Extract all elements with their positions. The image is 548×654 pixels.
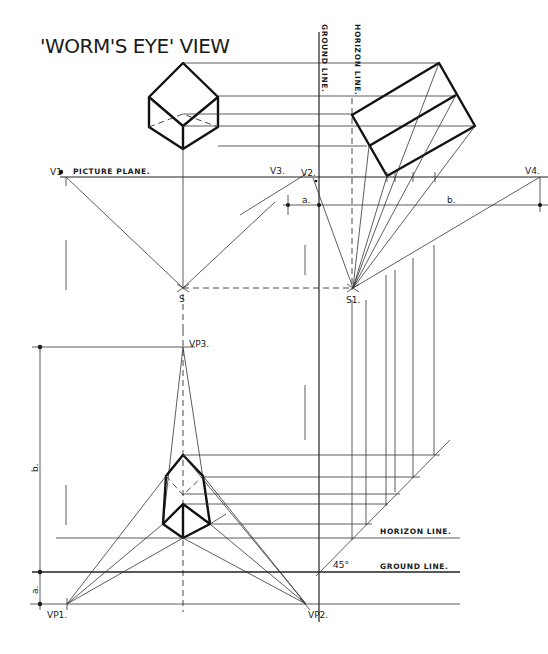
picture-plane-label: PICTURE PLANE. (73, 167, 150, 176)
drawing-title: 'WORM'S EYE' VIEW (40, 34, 230, 58)
horizon-line-label: HORIZON LINE. (380, 527, 452, 536)
v4-label: V4. (525, 166, 540, 176)
b-top-label: b. (447, 195, 456, 205)
vp3-label: VP3. (189, 339, 209, 349)
ground-line-label: GROUND LINE. (380, 562, 449, 571)
angle-label: 45° (333, 560, 349, 570)
v1-label: V1 (50, 167, 62, 177)
a-side-label: a. (30, 586, 40, 594)
vp2-label: VP2. (308, 610, 328, 620)
worms-eye-view-drawing: 'WORM'S EYE' VIEW V1 PICTURE PLANE. S GR… (0, 0, 548, 654)
45-degree-line (316, 440, 450, 576)
b-side-label: b. (30, 463, 40, 472)
ground-line-vertical-label: GROUND LINE. (320, 24, 329, 93)
rotated-elevation (313, 63, 540, 288)
vp1-label: VP1. (47, 610, 67, 620)
horizon-line-vertical-label: HORIZON LINE. (353, 24, 362, 96)
s-label: S (179, 294, 185, 304)
v3-label: V3. (270, 166, 285, 176)
vertical-projectors (305, 245, 434, 540)
plan-cube (149, 63, 218, 149)
v2-label: V2. (301, 168, 316, 178)
perspective-cube (163, 455, 210, 538)
vp2-rays (183, 455, 310, 610)
s1-label: S1. (346, 295, 360, 305)
a-top-label: a. (302, 195, 310, 205)
